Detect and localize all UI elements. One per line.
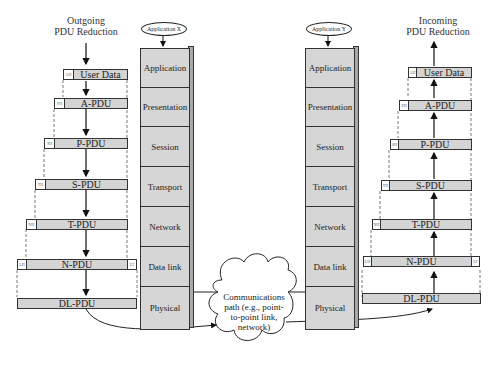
caption-line: Outgoing — [46, 15, 126, 26]
caption-line: PDU Reduction — [46, 26, 126, 37]
pdu-n: N-PDU LH LT — [371, 256, 472, 267]
pdu-label: P-PDU — [77, 138, 106, 149]
layer-data-link: Data link — [306, 247, 354, 287]
layer-application: Application — [141, 49, 189, 88]
layer-transport: Transport — [306, 167, 354, 207]
cloud-line: Communications — [214, 292, 294, 302]
layer-data-link: Data link — [141, 247, 189, 287]
outgoing-caption: Outgoing PDU Reduction — [46, 15, 126, 37]
pdu-header: SH — [44, 138, 55, 149]
cloud-line: to-point link, — [214, 312, 294, 322]
layer-session: Session — [141, 127, 189, 167]
layer-network: Network — [306, 207, 354, 247]
pdu-header: PH — [54, 98, 65, 109]
layer-physical: Physical — [306, 287, 354, 329]
layer-presentation: Presentation — [141, 88, 189, 127]
pdu-label: DL-PDU — [403, 293, 440, 304]
pdu-n: N-PDU LH LT — [26, 259, 128, 270]
pdu-header: LH — [17, 259, 27, 270]
pdu-label: User Data — [80, 69, 120, 80]
pdu-label: N-PDU — [406, 256, 437, 267]
layer-session: Session — [306, 127, 354, 167]
pdu-trailer: LT — [471, 256, 480, 267]
osi-stack-x: Application Presentation Session Transpo… — [140, 48, 190, 330]
incoming-caption: Incoming PDU Reduction — [398, 15, 478, 37]
pdu-header: PH — [399, 100, 409, 111]
pdu-label: User Data — [424, 67, 464, 78]
pdu-user-data: User Data AH — [73, 69, 128, 80]
pdu-label: A-PDU — [81, 98, 112, 109]
pdu-label: P-PDU — [421, 139, 450, 150]
layer-presentation: Presentation — [306, 88, 354, 127]
pdu-header: TH — [381, 180, 390, 191]
pdu-user-data: User Data AH — [416, 67, 472, 78]
pdu-t: T-PDU NH — [380, 219, 472, 230]
pdu-header: LH — [363, 256, 372, 267]
pdu-label: T-PDU — [68, 219, 97, 230]
layer-network: Network — [141, 207, 189, 247]
cloud-line: network) — [214, 322, 294, 332]
pdu-dl: DL-PDU — [362, 293, 481, 304]
pdu-header: AH — [63, 69, 74, 80]
pdu-a: A-PDU PH — [408, 100, 472, 111]
pdu-label: A-PDU — [425, 100, 456, 111]
layer-transport: Transport — [141, 167, 189, 207]
pdu-t: T-PDU NH — [36, 219, 128, 230]
pdu-label: T-PDU — [412, 219, 441, 230]
application-x-ellipse: Application X — [141, 22, 187, 36]
cloud-line: path (e.g., point- — [214, 302, 294, 312]
pdu-header: SH — [390, 139, 399, 150]
pdu-a: A-PDU PH — [64, 98, 128, 109]
pdu-label: N-PDU — [62, 259, 93, 270]
pdu-header: AH — [408, 67, 417, 78]
pdu-label: S-PDU — [72, 179, 101, 190]
layer-physical: Physical — [141, 287, 189, 329]
layer-application: Application — [306, 49, 354, 88]
pdu-p: P-PDU SH — [398, 139, 472, 150]
pdu-p: P-PDU SH — [54, 138, 128, 149]
caption-line: PDU Reduction — [398, 26, 478, 37]
pdu-trailer: LT — [127, 259, 137, 270]
pdu-header: NH — [372, 219, 381, 230]
application-y-ellipse: Application Y — [306, 22, 352, 36]
communications-path-label: Communications path (e.g., point- to-poi… — [214, 292, 294, 332]
pdu-s: S-PDU TH — [45, 179, 128, 190]
pdu-label: S-PDU — [416, 180, 445, 191]
osi-stack-y: Application Presentation Session Transpo… — [305, 48, 355, 330]
caption-line: Incoming — [398, 15, 478, 26]
pdu-s: S-PDU TH — [389, 180, 472, 191]
pdu-label: DL-PDU — [59, 298, 96, 309]
pdu-header: NH — [26, 219, 37, 230]
pdu-header: TH — [35, 179, 46, 190]
pdu-dl: DL-PDU — [17, 298, 137, 309]
